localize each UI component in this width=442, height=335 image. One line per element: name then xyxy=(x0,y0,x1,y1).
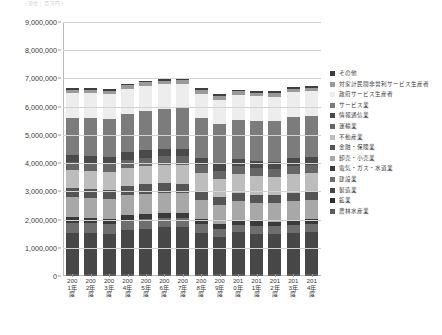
bar-segment xyxy=(268,195,281,203)
bar-segment xyxy=(287,158,300,165)
legend-item[interactable]: 農林水産業 xyxy=(330,208,440,216)
gridline xyxy=(63,22,321,23)
bar-segment xyxy=(121,168,134,186)
bar-segment xyxy=(287,233,300,274)
bar-column[interactable] xyxy=(158,79,171,276)
bar-segment xyxy=(103,224,116,234)
bar-segment xyxy=(158,149,171,157)
stacked-bar-chart: （単位：百万円） 01,000,0002,000,0003,000,0004,0… xyxy=(0,0,442,335)
bar-segment xyxy=(305,232,318,274)
y-axis-tick-label: 9,000,000 xyxy=(25,18,57,27)
bar-segment xyxy=(213,179,226,198)
bar-segment xyxy=(176,227,189,274)
legend-item[interactable]: 鉱業 xyxy=(330,197,440,205)
bar-segment xyxy=(139,194,152,214)
bar-segment xyxy=(121,195,134,215)
bar-segment xyxy=(84,198,97,218)
y-axis-tick-label: 0 xyxy=(53,272,57,281)
legend-item-label: 運輸業 xyxy=(339,123,357,130)
y-axis-tick xyxy=(58,78,61,79)
bar-segment xyxy=(250,195,263,203)
x-axis-tick-label: 2008年度 xyxy=(195,278,208,298)
legend-item[interactable]: 政府サービス生産者 xyxy=(330,91,440,99)
x-axis-tick-label: 2014年度 xyxy=(305,278,318,298)
legend-item[interactable]: その他 xyxy=(330,70,440,78)
legend-item-label: サービス業 xyxy=(339,102,369,109)
bar-segment xyxy=(66,223,79,234)
x-axis-tick xyxy=(220,274,221,277)
legend-swatch-icon xyxy=(330,156,335,161)
legend-item-label: 鉱業 xyxy=(339,197,351,204)
bar-segment xyxy=(305,192,318,200)
y-axis-tick xyxy=(58,50,61,51)
bar-segment xyxy=(305,165,318,173)
bar-segment xyxy=(84,163,97,171)
legend-item[interactable]: 情報通信業 xyxy=(330,112,440,120)
y-axis-tick-label: 8,000,000 xyxy=(25,46,57,55)
bar-segment xyxy=(121,114,134,153)
bar-segment xyxy=(121,221,134,230)
bar-segment xyxy=(66,170,79,187)
gridline xyxy=(63,248,321,249)
legend-item[interactable]: 建設業 xyxy=(330,176,440,184)
gridline xyxy=(63,107,321,108)
x-axis-tick xyxy=(312,274,313,277)
legend-item[interactable]: 製造業 xyxy=(330,187,440,195)
bar-segment xyxy=(66,233,79,273)
x-axis-tick-label: 2003年度 xyxy=(103,278,116,298)
bar-segment xyxy=(268,177,281,196)
bar-segment xyxy=(250,226,263,234)
y-axis-tick xyxy=(58,22,61,23)
legend-item[interactable]: 金融・保険業 xyxy=(330,144,440,152)
legend-item-label: その他 xyxy=(339,70,357,77)
bar-segment xyxy=(66,118,79,155)
bar-segment xyxy=(232,193,245,201)
legend-item[interactable]: サービス業 xyxy=(330,102,440,110)
bar-column[interactable] xyxy=(176,79,189,277)
x-axis-tick-label: 2005年度 xyxy=(139,278,152,298)
y-axis: 01,000,0002,000,0003,000,0004,000,0005,0… xyxy=(0,22,61,276)
legend-item-label: 金融・保険業 xyxy=(339,144,375,151)
x-axis-tick xyxy=(183,274,184,277)
x-axis-tick-label: 2002年度 xyxy=(84,278,97,298)
x-axis-tick xyxy=(201,274,202,277)
bar-segment xyxy=(103,164,116,172)
y-axis-tick-label: 1,000,000 xyxy=(25,243,57,252)
y-axis-tick xyxy=(58,219,61,220)
bar-segment xyxy=(268,169,281,177)
bar-segment xyxy=(195,200,208,219)
bar-segment xyxy=(305,173,318,192)
legend-item[interactable]: 卸売・小売業 xyxy=(330,155,440,163)
bar-segment xyxy=(287,174,300,193)
bar-segment xyxy=(213,197,226,205)
bar-segment xyxy=(232,174,245,193)
legend-item[interactable]: 電気・ガス・水道業 xyxy=(330,165,440,173)
bar-segment xyxy=(176,84,189,109)
bar-column[interactable] xyxy=(139,81,152,276)
bar-segment xyxy=(213,171,226,179)
bar-segment xyxy=(84,223,97,233)
bar-segment xyxy=(176,165,189,184)
bars-container xyxy=(63,22,321,276)
bar-segment xyxy=(305,91,318,116)
bar-segment xyxy=(287,225,300,234)
bar-segment xyxy=(195,192,208,200)
x-axis-tick xyxy=(146,274,147,277)
bar-segment xyxy=(84,118,97,156)
y-axis-tick-label: 7,000,000 xyxy=(25,74,57,83)
bar-column[interactable] xyxy=(213,94,226,276)
x-axis-tick xyxy=(293,274,294,277)
bar-segment xyxy=(195,224,208,232)
legend-item[interactable]: 不動産業 xyxy=(330,134,440,142)
legend-item-label: 不動産業 xyxy=(339,134,363,141)
legend-item-label: 製造業 xyxy=(339,187,357,194)
gridline xyxy=(63,50,321,51)
legend-swatch-icon xyxy=(330,82,335,87)
bar-segment xyxy=(305,200,318,219)
legend-item[interactable]: 運輸業 xyxy=(330,123,440,131)
legend-item-label: 電気・ガス・水道業 xyxy=(339,165,393,172)
x-axis-tick-label: 2010年度 xyxy=(232,278,245,298)
legend-item[interactable]: 対家計民間非営利サービス生産者 xyxy=(330,81,440,89)
bar-segment xyxy=(287,166,300,174)
y-axis-tick-label: 4,000,000 xyxy=(25,159,57,168)
